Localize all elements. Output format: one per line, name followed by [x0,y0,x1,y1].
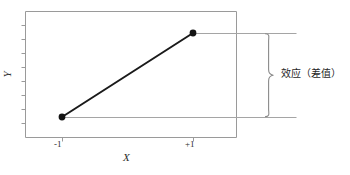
effect-difference-label: 效应（差值） [281,69,341,79]
effect-brace-icon [266,34,274,117]
x-axis-title: X [123,152,130,163]
data-point-marker-high [190,30,197,37]
data-line [62,33,193,117]
x-axis-ticks [63,138,194,142]
plot-frame [26,12,237,138]
chart-canvas [0,0,350,175]
x-tick-label-pos1: +1 [185,140,195,149]
effect-difference-chart: -1 +1 X Y 效应（差值） [0,0,350,175]
data-point-marker-low [59,114,66,121]
x-tick-label-neg1: -1 [54,140,62,149]
y-axis-ticks [22,26,26,124]
frame-border [26,12,237,138]
reference-lines [63,34,297,118]
brace-path [266,34,274,117]
y-axis-title: Y [2,71,13,77]
data-series [59,30,197,121]
